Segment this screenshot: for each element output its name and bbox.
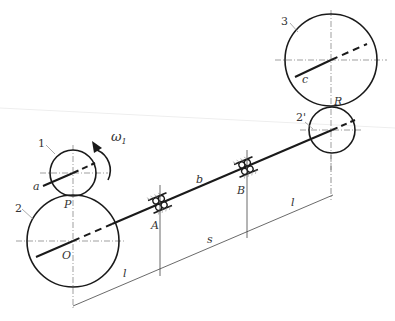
dim-l-left-label: l bbox=[123, 267, 127, 280]
shaft-a-hidden bbox=[73, 163, 95, 173]
shaft-c bbox=[295, 60, 331, 77]
point-o-label: O bbox=[62, 249, 71, 262]
gear-3-label: 3 bbox=[281, 15, 288, 28]
omega-arrow-icon bbox=[92, 141, 110, 180]
shaft-c-hidden bbox=[331, 44, 367, 60]
point-p-label: P bbox=[63, 198, 72, 211]
shaft-c-label: c bbox=[302, 73, 308, 86]
shaft-b-label: b bbox=[196, 173, 203, 186]
gear-train-diagram: 1 2 2' 3 P O R A B a b c ω1 l s l bbox=[0, 0, 395, 321]
dim-l-right-label: l bbox=[291, 196, 295, 209]
omega-label: ω1 bbox=[111, 129, 127, 146]
scan-artifact-line bbox=[0, 108, 395, 128]
shaft-a bbox=[43, 173, 73, 186]
bearing-a-label: A bbox=[150, 219, 159, 232]
dim-s-label: s bbox=[207, 233, 213, 246]
gear-1-label: 1 bbox=[38, 137, 45, 150]
point-r-label: R bbox=[333, 95, 342, 108]
gear-2-prime-label: 2' bbox=[296, 111, 306, 124]
bearing-b-label: B bbox=[236, 184, 245, 197]
leader-lines bbox=[22, 23, 313, 219]
shaft-b-hidden bbox=[73, 224, 112, 241]
gear-2-label: 2 bbox=[15, 202, 22, 215]
shaft-a-label: a bbox=[33, 180, 40, 193]
